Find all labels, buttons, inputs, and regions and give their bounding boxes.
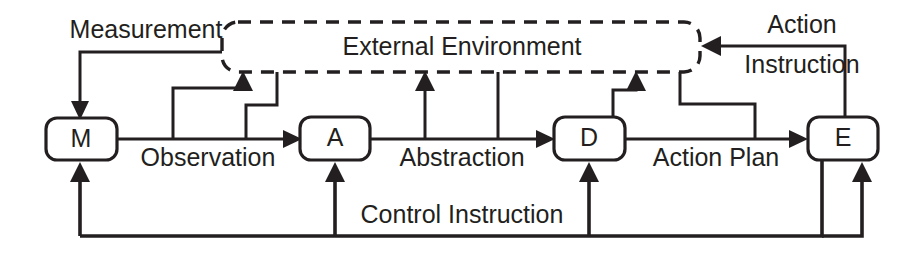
arrowhead-abstraction (536, 130, 555, 148)
node-label-e: E (835, 123, 852, 151)
edge-environment-to-action-plan (680, 72, 755, 139)
arrowhead-action-instruction (701, 36, 721, 56)
arrowhead-control-to-a (325, 162, 345, 182)
edge-label-action-plan: Action Plan (653, 143, 779, 171)
edge-measurement (71, 52, 222, 120)
edge-label-control-instruction: Control Instruction (361, 200, 564, 228)
node-label-m: M (71, 124, 92, 152)
edge-label-abstraction: Abstraction (399, 143, 524, 171)
flow-diagram-canvas: M A D E External Environment Measurement… (0, 0, 924, 253)
node-label-d: D (580, 123, 598, 151)
edge-observation-to-environment (173, 71, 253, 139)
edge-label-action-instruction-line2: Instruction (744, 50, 859, 78)
arrowhead-control-to-d (579, 162, 599, 182)
arrowhead-action-plan-env (626, 71, 646, 91)
arrowhead-observation-env (233, 71, 253, 91)
edge-label-action-instruction-line1: Action (767, 10, 836, 38)
external-environment-label: External Environment (342, 32, 581, 60)
edge-environment-to-observation (246, 72, 277, 139)
arrowhead-control-to-e (852, 162, 872, 182)
node-label-a: A (327, 123, 344, 151)
arrowhead-abstraction-env (415, 71, 435, 91)
arrowhead-action-plan (789, 130, 808, 148)
flow-diagram: M A D E External Environment Measurement… (0, 0, 924, 253)
arrowhead-control-to-m (70, 162, 90, 182)
edge-label-observation: Observation (141, 143, 276, 171)
edge-label-measurement: Measurement (70, 15, 223, 43)
edge-abstraction-to-environment (415, 71, 435, 139)
